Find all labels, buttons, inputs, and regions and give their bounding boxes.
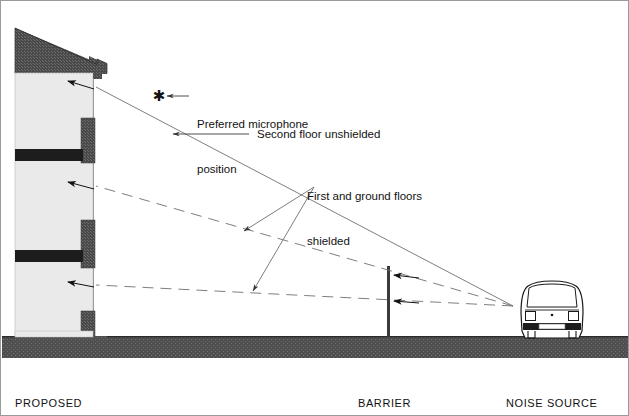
callout-second-floor: Second floor unshielded — [257, 127, 380, 142]
caption-barrier: BARRIER e.g. fence or earth bank — [358, 368, 424, 416]
callout-microphone-line2: position — [197, 162, 308, 177]
caption-noise-source: NOISE SOURCE e.g. road or railway — [506, 368, 598, 416]
barrier-arrows — [394, 275, 419, 303]
ground-floor-sight-line — [96, 285, 513, 306]
callout-microphone: Preferred microphone position — [197, 88, 308, 206]
building-cross-section — [15, 28, 107, 358]
callout-lower-floors: First and ground floors shielded — [307, 160, 422, 278]
diagram-canvas: ✱ Preferred microphone position Second f… — [0, 0, 629, 416]
callout-lower-floors-line1: First and ground floors — [307, 189, 422, 204]
asterisk-marker: ✱ — [153, 87, 166, 105]
caption-barrier-line1: BARRIER — [358, 396, 424, 410]
callout-lower-floors-line2: shielded — [307, 234, 422, 249]
caption-development-line1: PROPOSED — [15, 396, 105, 410]
caption-proposed-development: PROPOSED DEVELOPMENT — [15, 368, 105, 416]
car-rear-view — [521, 281, 583, 338]
roof-wedge — [15, 28, 107, 74]
caption-noise-source-line1: NOISE SOURCE — [506, 396, 598, 410]
svg-text:✱: ✱ — [153, 87, 166, 105]
